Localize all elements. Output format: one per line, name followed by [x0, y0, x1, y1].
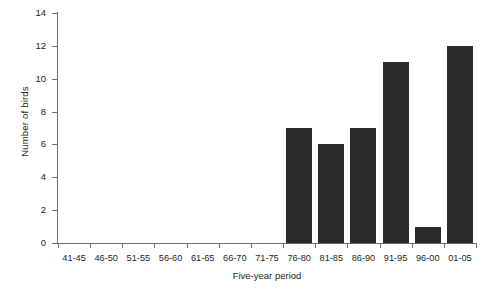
- bar-chart: Number of birds 02468101214 41-4546-5051…: [0, 0, 488, 301]
- x-tick-label-86-90: 86-90: [347, 252, 379, 264]
- bar-76-80: [286, 128, 312, 243]
- x-tick: [412, 243, 413, 248]
- x-axis-line: [57, 243, 477, 244]
- bar-81-85: [318, 144, 344, 243]
- x-tick: [476, 243, 477, 248]
- x-tick-label-61-65: 61-65: [187, 252, 219, 264]
- x-tick-label-71-75: 71-75: [251, 252, 283, 264]
- x-tick-label-01-05: 01-05: [444, 252, 476, 264]
- x-tick-label-66-70: 66-70: [219, 252, 251, 264]
- x-tick: [347, 243, 348, 248]
- x-tick: [187, 243, 188, 248]
- x-tick-label-96-00: 96-00: [412, 252, 444, 264]
- bar-01-05: [447, 46, 473, 243]
- x-tick: [58, 243, 59, 248]
- x-tick-label-46-50: 46-50: [90, 252, 122, 264]
- x-tick-label-81-85: 81-85: [315, 252, 347, 264]
- x-tick: [90, 243, 91, 248]
- y-tick-0: [52, 243, 57, 244]
- x-tick: [154, 243, 155, 248]
- x-tick-label-56-60: 56-60: [154, 252, 186, 264]
- x-axis-title: Five-year period: [58, 270, 476, 281]
- bar-96-00: [415, 227, 441, 243]
- x-tick: [219, 243, 220, 248]
- x-tick: [315, 243, 316, 248]
- x-tick: [251, 243, 252, 248]
- x-tick-label-41-45: 41-45: [58, 252, 90, 264]
- x-tick: [380, 243, 381, 248]
- x-tick-label-76-80: 76-80: [283, 252, 315, 264]
- x-tick-label-51-55: 51-55: [122, 252, 154, 264]
- x-tick: [283, 243, 284, 248]
- bars-group: [0, 0, 488, 243]
- x-tick-label-91-95: 91-95: [380, 252, 412, 264]
- bar-91-95: [383, 62, 409, 243]
- x-tick: [444, 243, 445, 248]
- x-tick: [122, 243, 123, 248]
- bar-86-90: [350, 128, 376, 243]
